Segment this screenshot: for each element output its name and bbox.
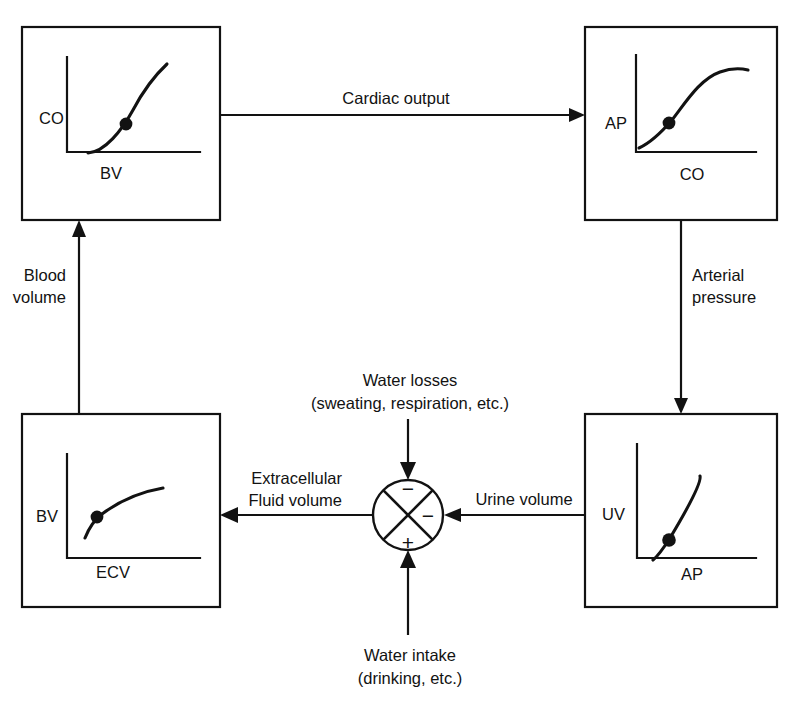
label-extracellular-line2: Fluid volume [248,491,342,509]
summing-junction-bottom-sign: + [402,531,414,554]
box-ap-vs-co-curve [639,69,748,148]
label-cardiac-output: Cardiac output [342,89,450,107]
label-water-losses-line1: Water losses [363,371,458,389]
label-water-losses-line2: (sweating, respiration, etc.) [311,394,509,412]
box-uv-vs-ap-axes [637,444,756,558]
box-co-vs-bv-operating-point [120,118,133,131]
box-bv-vs-ecv-y-label: BV [36,507,58,525]
diagram-canvas: CO BV AP CO BV ECV UV AP Cardiac output … [0,0,796,706]
box-bv-vs-ecv-axes [67,454,200,558]
connector-urine-volume-arrowhead [444,508,461,522]
box-ap-vs-co-y-label: AP [605,114,627,132]
summing-junction-top-sign: − [402,477,414,500]
label-extracellular-line1: Extracellular [251,469,342,487]
connector-cardiac-output [220,108,585,122]
label-urine-volume: Urine volume [475,490,572,508]
connector-water-losses [400,419,416,480]
connector-cardiac-output-arrowhead [569,108,585,122]
connector-urine-volume [444,508,585,522]
connector-blood-volume-arrowhead [72,220,86,237]
box-ap-vs-co-x-label: CO [680,165,705,183]
box-bv-vs-ecv-x-label: ECV [96,563,130,581]
physiology-feedback-diagram: CO BV AP CO BV ECV UV AP Cardiac output … [0,0,796,706]
box-co-vs-bv-x-label: BV [100,164,122,182]
label-arterial-pressure-line1: Arterial [692,266,744,284]
connector-blood-volume [72,220,86,414]
summing-junction-right-sign: − [422,504,434,527]
connector-extracellular-fluid-volume [220,507,372,523]
label-blood-volume-line2: volume [13,288,66,306]
box-bv-vs-ecv-operating-point [91,511,104,524]
connector-extracellular-fluid-volume-arrowhead [220,507,238,523]
box-uv-vs-ap-x-label: AP [681,565,703,583]
box-uv-vs-ap-curve [653,476,700,560]
connector-arterial-pressure-arrowhead [674,398,688,414]
label-water-intake-line1: Water intake [364,646,456,664]
box-co-vs-bv-axes [67,57,200,152]
connector-arterial-pressure [674,220,688,414]
box-uv-vs-ap-operating-point [662,533,676,547]
box-co-vs-bv-curve [88,64,167,153]
label-arterial-pressure-line2: pressure [692,288,756,306]
label-blood-volume-line1: Blood [24,266,66,284]
box-uv-vs-ap-y-label: UV [602,505,625,523]
connector-water-intake [400,550,416,635]
box-co-vs-bv-y-label: CO [39,109,64,127]
label-water-intake-line2: (drinking, etc.) [358,669,463,687]
box-ap-vs-co-operating-point [663,117,676,130]
